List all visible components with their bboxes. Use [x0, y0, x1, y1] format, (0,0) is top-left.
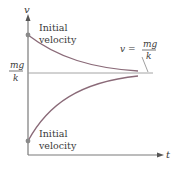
asymptote-right-numerator: mg [143, 39, 158, 49]
y-axis-arrow-icon [26, 14, 31, 21]
asymptote-right-denominator: k [146, 51, 151, 61]
lower-initial-label-line1: Initial [39, 128, 67, 139]
x-axis-label: t [166, 149, 171, 160]
upper-initial-label-line1: Initial [39, 22, 67, 33]
lower-initial-velocity-dot [26, 139, 31, 144]
asymptote-left-denominator: k [13, 73, 18, 83]
upper-initial-velocity-dot [26, 33, 31, 38]
asymptote-right-lhs: v = [120, 44, 136, 54]
upper-initial-label-line2: velocity [38, 34, 77, 45]
asymptote-left-numerator: mg [10, 60, 25, 70]
x-axis-arrow-icon [157, 153, 164, 158]
velocity-diagram: v t mg k v = mg k Initial velocity Initi… [0, 0, 181, 170]
lower-initial-label-line2: velocity [38, 140, 77, 151]
y-axis-label: v [24, 4, 30, 15]
